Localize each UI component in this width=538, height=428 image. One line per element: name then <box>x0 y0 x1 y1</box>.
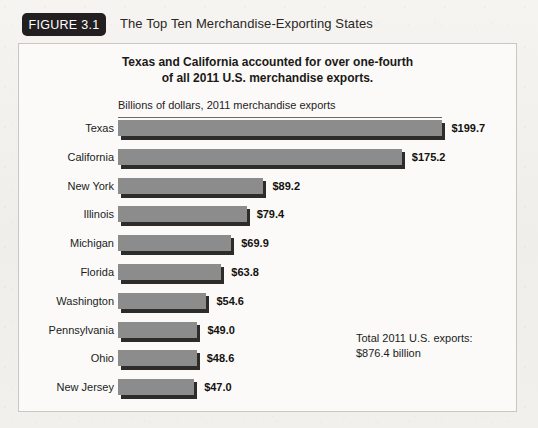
total-exports-note-line-1: Total 2011 U.S. exports: <box>356 331 473 346</box>
bar-category-label: Texas <box>19 122 114 134</box>
bar <box>118 149 402 170</box>
bar-fill <box>118 264 221 280</box>
chart-headline-line-2: of all 2011 U.S. merchandise exports. <box>59 70 476 86</box>
bar-fill <box>118 322 197 338</box>
bar <box>118 293 206 314</box>
bar-shadow-edge <box>263 181 266 198</box>
bar-shadow <box>121 395 197 399</box>
bar-row: Illinois$79.4 <box>19 205 516 234</box>
bar-fill <box>118 206 247 222</box>
bar-shadow <box>121 222 250 226</box>
bar-shadow <box>121 338 200 342</box>
bar <box>118 264 221 285</box>
bar <box>118 350 197 371</box>
bar-shadow <box>121 366 200 370</box>
bar-value-label: $54.6 <box>216 295 244 307</box>
bar <box>118 379 194 400</box>
bar-fill <box>118 149 402 165</box>
bar-value-label: $79.4 <box>257 208 285 220</box>
bar-shadow-edge <box>442 123 445 140</box>
axis-rule <box>118 117 442 118</box>
bar <box>118 206 247 227</box>
bar-row: California$175.2 <box>19 148 516 177</box>
bar-shadow <box>121 251 234 255</box>
chart-headline-line-1: Texas and California accounted for over … <box>122 55 413 69</box>
bar-fill <box>118 293 206 309</box>
bar-row: Texas$199.7 <box>19 119 516 148</box>
figure-title: The Top Ten Merchandise-Exporting States <box>120 16 373 31</box>
bar-value-label: $49.0 <box>207 324 235 336</box>
bar-category-label: Illinois <box>19 208 114 220</box>
bar-row: Washington$54.6 <box>19 292 516 321</box>
bar-value-label: $69.9 <box>241 237 269 249</box>
bar-fill <box>118 178 263 194</box>
bar-value-label: $175.2 <box>412 151 446 163</box>
bar-value-label: $48.6 <box>207 352 235 364</box>
bar-shadow <box>121 165 405 169</box>
bar <box>118 322 197 343</box>
bar-shadow-edge <box>247 209 250 226</box>
bar-shadow-edge <box>197 325 200 342</box>
chart-headline: Texas and California accounted for over … <box>19 54 516 86</box>
bar-category-label: Pennsylvania <box>19 324 114 336</box>
bar-shadow <box>121 194 266 198</box>
chart-axis-label: Billions of dollars, 2011 merchandise ex… <box>118 99 335 111</box>
bar-shadow-edge <box>197 353 200 370</box>
bar-row: New York$89.2 <box>19 177 516 206</box>
bar-row: Florida$63.8 <box>19 263 516 292</box>
bar-shadow <box>121 136 445 140</box>
total-exports-note: Total 2011 U.S. exports: $876.4 billion <box>356 331 473 361</box>
bar-shadow-edge <box>194 382 197 399</box>
bar-value-label: $47.0 <box>204 381 232 393</box>
bar-category-label: California <box>19 151 114 163</box>
bar-value-label: $199.7 <box>452 122 486 134</box>
bar-category-label: New York <box>19 180 114 192</box>
bar-chart-plot: Texas$199.7California$175.2New York$89.2… <box>19 119 516 411</box>
bar-fill <box>118 379 194 395</box>
bar-category-label: New Jersey <box>19 381 114 393</box>
bar-category-label: Michigan <box>19 237 114 249</box>
bar-category-label: Ohio <box>19 352 114 364</box>
bar <box>118 178 263 199</box>
bar-shadow-edge <box>206 296 209 313</box>
bar-row: Michigan$69.9 <box>19 234 516 263</box>
bar-shadow-edge <box>231 238 234 255</box>
figure-number-badge: FIGURE 3.1 <box>22 13 106 36</box>
bar <box>118 235 231 256</box>
figure-frame: Texas and California accounted for over … <box>18 43 517 412</box>
bar-category-label: Florida <box>19 266 114 278</box>
bar-value-label: $63.8 <box>231 266 259 278</box>
bar-category-label: Washington <box>19 295 114 307</box>
total-exports-note-line-2: $876.4 billion <box>356 346 473 361</box>
bar-fill <box>118 120 442 136</box>
bar-shadow-edge <box>221 267 224 284</box>
bar-row: New Jersey$47.0 <box>19 378 516 407</box>
bar-fill <box>118 350 197 366</box>
bar <box>118 120 442 141</box>
bar-shadow <box>121 309 209 313</box>
bar-fill <box>118 235 231 251</box>
bar-shadow <box>121 280 224 284</box>
bar-shadow-edge <box>402 152 405 169</box>
bar-value-label: $89.2 <box>273 180 301 192</box>
